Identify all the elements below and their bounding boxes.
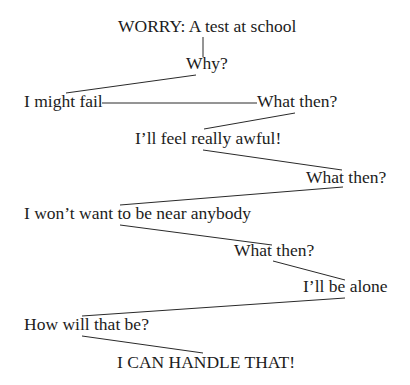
node-what-then-2: What then? <box>306 169 386 187</box>
node-what-then-3: What then? <box>234 242 314 260</box>
node-can-handle-that: I CAN HANDLE THAT! <box>117 354 295 372</box>
node-feel-awful: I’ll feel really awful! <box>135 130 281 148</box>
node-how-will-that-be: How will that be? <box>24 316 149 334</box>
node-near-anybody: I won’t want to be near anybody <box>24 205 251 223</box>
node-what-then-1: What then? <box>257 93 337 111</box>
edge-what-then-1-awful <box>204 113 295 129</box>
worry-flow-diagram: WORRY: A test at school Why? I might fai… <box>0 0 410 385</box>
node-worry: WORRY: A test at school <box>118 18 296 36</box>
node-why: Why? <box>186 55 228 73</box>
edge-how-handle <box>82 336 203 353</box>
node-might-fail: I might fail <box>24 93 103 111</box>
node-be-alone: I’ll be alone <box>303 278 388 296</box>
